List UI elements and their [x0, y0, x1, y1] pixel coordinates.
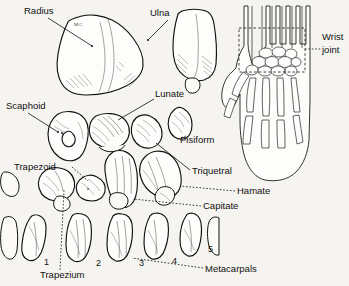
- anatomy-figure: Radius M.C Ulna Scaphoid Lunate Pisiform…: [0, 0, 349, 286]
- metacarpal-number-4: 4: [172, 256, 177, 266]
- label-wrist-joint-line2: joint: [321, 44, 340, 55]
- label-lunate: Lunate: [155, 88, 184, 99]
- label-capitate: Capitate: [203, 200, 238, 211]
- metacarpal-2: [66, 213, 91, 261]
- label-ulna: Ulna: [150, 7, 170, 18]
- metacarpal-number-2: 2: [96, 258, 101, 268]
- metacarpal-5: [180, 213, 201, 256]
- label-pisiform: Pisiform: [180, 134, 214, 145]
- label-triquetral: Triquetral: [192, 165, 232, 176]
- metacarpal-number-3: 3: [139, 258, 144, 268]
- label-radius: Radius: [24, 5, 54, 16]
- label-wrist-joint-line1: Wrist: [322, 31, 344, 42]
- label-metacarpals: Metacarpals: [205, 263, 257, 274]
- partial-bone-left-lower: [1, 217, 18, 260]
- hand-outline-diagram: [222, 6, 322, 181]
- capitate-bone: [105, 151, 138, 210]
- lunate-bone: [89, 114, 129, 152]
- metacarpal-3: [107, 214, 132, 262]
- label-hamate: Hamate: [237, 185, 270, 196]
- hamate-bone: [140, 151, 182, 205]
- trapezoid-bone: [76, 175, 105, 201]
- scaphoid-bone: [48, 112, 88, 161]
- metacarpal-number-1: 1: [44, 257, 49, 267]
- radius-bone: [57, 15, 143, 95]
- metacarpal-4: [144, 213, 168, 259]
- trapezium-bone: [38, 168, 74, 212]
- label-radius-margin-note: M.C: [74, 22, 82, 27]
- label-trapezoid: Trapezoid: [14, 161, 56, 172]
- leader-ulna: [148, 20, 168, 40]
- partial-bone-left: [1, 172, 19, 196]
- label-scaphoid: Scaphoid: [6, 100, 46, 111]
- triquetral-bone: [131, 115, 162, 148]
- metacarpal-number-5: 5: [208, 244, 213, 254]
- ulna-bone: [173, 9, 216, 93]
- leader-hamate: [180, 186, 235, 191]
- label-trapezium: Trapezium: [40, 269, 85, 280]
- metacarpal-1: [22, 215, 46, 261]
